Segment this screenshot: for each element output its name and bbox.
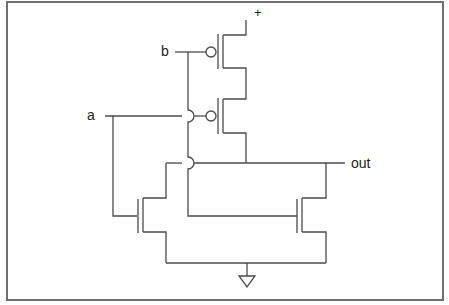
pmos-transistor-b	[206, 20, 246, 99]
supply-wire	[223, 20, 246, 35]
pmos-b-bubble	[206, 47, 216, 57]
pmos-a-bubble	[206, 111, 216, 121]
diagram-frame	[7, 2, 443, 300]
ground-icon	[239, 263, 255, 287]
nmos-b-source	[302, 232, 326, 263]
schematic: + b a out	[0, 0, 449, 305]
input-a-label: a	[87, 107, 95, 123]
output-label: out	[351, 155, 371, 171]
nmos-transistor-a	[138, 163, 166, 263]
supply-label: +	[254, 5, 262, 20]
input-b-label: b	[161, 43, 169, 59]
nmos-b-drain	[302, 163, 326, 198]
input-a-vertical	[113, 116, 137, 216]
nmos-transistor-b	[297, 163, 326, 263]
pmos-b-drain	[223, 68, 246, 99]
nmos-a-source	[143, 232, 166, 263]
pmos-transistor-a	[206, 98, 246, 163]
pmos-a-drain	[223, 133, 246, 163]
nmos-a-drain	[143, 163, 166, 198]
input-b-vertical	[188, 52, 297, 216]
